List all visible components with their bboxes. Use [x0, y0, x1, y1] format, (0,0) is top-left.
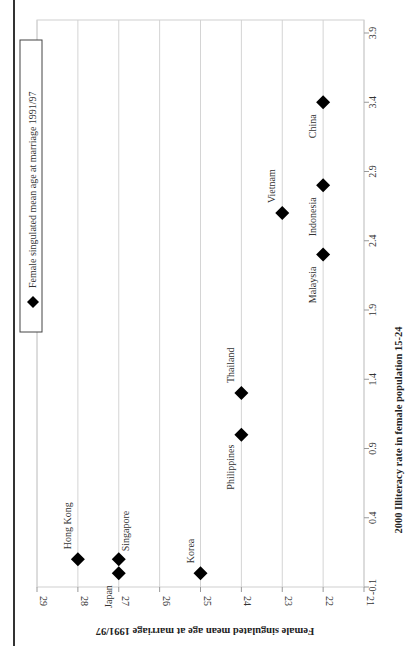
diamond-marker-icon	[275, 206, 289, 220]
diamond-marker-icon	[194, 566, 208, 580]
diamond-marker-icon	[112, 566, 126, 580]
y-axis-ticks: 212223242526272829	[37, 587, 376, 606]
x-tick-label: -0.1	[367, 579, 378, 595]
y-tick-label: 23	[283, 596, 294, 606]
data-point: Indonesia	[307, 178, 330, 236]
y-tick-label: 28	[79, 596, 90, 606]
x-tick-label: 1.4	[367, 373, 378, 386]
point-label: Hong Kong	[62, 502, 73, 549]
diamond-marker-icon	[316, 178, 330, 192]
data-point: China	[307, 95, 330, 138]
point-label: China	[307, 114, 318, 138]
x-tick-label: 3.4	[367, 96, 378, 109]
diamond-marker-icon	[316, 248, 330, 262]
point-label: Thailand	[225, 348, 236, 384]
y-tick-label: 24	[242, 596, 253, 606]
point-label: Indonesia	[307, 197, 318, 236]
legend: Female singulated mean age at marriage 1…	[20, 40, 42, 332]
point-label: Philippines	[225, 445, 236, 490]
data-point: Hong Kong	[62, 502, 85, 566]
y-tick-label: 26	[161, 596, 172, 606]
data-point: Malaysia	[307, 248, 330, 304]
data-point: Singapore	[112, 510, 131, 566]
point-label: Malaysia	[307, 266, 318, 303]
point-label: Singapore	[120, 510, 131, 551]
scatter-chart: 212223242526272829 -0.10.40.91.41.92.42.…	[0, 0, 410, 646]
point-label: Korea	[185, 538, 196, 563]
point-label: Japan	[103, 585, 114, 608]
legend-label: Female singulated mean age at marriage 1…	[27, 91, 38, 288]
x-tick-label: 2.9	[367, 165, 378, 178]
y-tick-label: 27	[120, 596, 131, 606]
x-axis-ticks: -0.10.40.91.41.92.42.93.43.9	[364, 27, 378, 595]
diamond-marker-icon	[71, 552, 85, 566]
diamond-marker-icon	[316, 95, 330, 109]
y-tick-label: 21	[365, 596, 376, 606]
x-tick-label: 0.9	[367, 442, 378, 455]
y-tick-label: 22	[324, 596, 335, 606]
data-point: Thailand	[225, 348, 248, 401]
diamond-marker-icon	[112, 552, 126, 566]
x-tick-label: 0.4	[367, 512, 378, 525]
point-label: Vietnam	[266, 169, 277, 203]
data-point: Korea	[185, 538, 208, 580]
data-point: Philippines	[225, 428, 248, 490]
y-tick-label: 25	[202, 596, 213, 606]
chart-page: 212223242526272829 -0.10.40.91.41.92.42.…	[0, 0, 410, 646]
diamond-marker-icon	[234, 428, 248, 442]
y-tick-label: 29	[38, 596, 49, 606]
x-tick-label: 1.9	[367, 304, 378, 317]
x-axis-title: 2000 Illiteracy rate in female populatio…	[393, 326, 404, 534]
data-point: Vietnam	[266, 169, 289, 220]
x-tick-label: 3.9	[367, 27, 378, 40]
y-axis-title: Female singulated mean age at marriage 1…	[96, 626, 315, 637]
x-tick-label: 2.4	[367, 235, 378, 248]
diamond-marker-icon	[234, 386, 248, 400]
data-points: Hong KongSingaporeJapanKoreaPhilippinesT…	[62, 95, 330, 608]
